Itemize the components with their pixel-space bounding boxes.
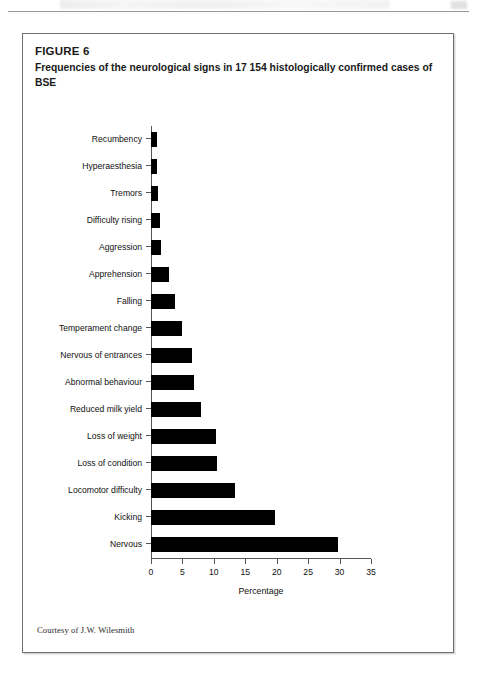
category-label: Reduced milk yield [70, 401, 142, 417]
page-running-head-text-ghost [60, 0, 390, 9]
bar-row: Abnormal behaviour [151, 369, 451, 396]
category-label: Temperament change [59, 320, 142, 336]
category-label: Loss of weight [87, 428, 142, 444]
x-axis-tick [182, 559, 183, 564]
x-axis-tick [371, 559, 372, 564]
page-running-head-rule [8, 11, 469, 12]
bar [151, 213, 160, 228]
bar [151, 240, 161, 255]
bar [151, 267, 169, 282]
bar-row: Nervous [151, 531, 451, 558]
category-label: Kicking [114, 509, 142, 525]
bar-row: Loss of condition [151, 450, 451, 477]
bar-row: Temperament change [151, 315, 451, 342]
bars-container: RecumbencyHyperaesthesiaTremorsDifficult… [151, 126, 451, 558]
bar-row: Hyperaesthesia [151, 153, 451, 180]
bar [151, 429, 216, 444]
bar [151, 402, 201, 417]
bar [151, 159, 157, 174]
bar [151, 186, 158, 201]
bar-row: Aggression [151, 234, 451, 261]
bar-row: Falling [151, 288, 451, 315]
bar [151, 510, 275, 525]
bar [151, 483, 235, 498]
category-label: Locomotor difficulty [68, 482, 142, 498]
bar [151, 294, 175, 309]
bar [151, 348, 192, 363]
bar-row: Difficulty rising [151, 207, 451, 234]
x-axis-tick-label: 10 [209, 567, 219, 577]
bar [151, 375, 194, 390]
bar-chart: RecumbencyHyperaesthesiaTremorsDifficult… [23, 34, 455, 654]
category-label: Apprehension [89, 266, 142, 282]
bar-row: Reduced milk yield [151, 396, 451, 423]
category-label: Difficulty rising [87, 212, 142, 228]
bar-row: Locomotor difficulty [151, 477, 451, 504]
x-axis-tick-label: 15 [241, 567, 251, 577]
category-label: Nervous of entrances [60, 347, 142, 363]
category-label: Falling [117, 293, 142, 309]
category-label: Nervous [110, 536, 142, 552]
x-axis-tick-label: 0 [149, 567, 154, 577]
x-axis-tick [308, 559, 309, 564]
x-axis-tick-label: 25 [303, 567, 313, 577]
bar-row: Loss of weight [151, 423, 451, 450]
x-axis-tick-label: 30 [335, 567, 345, 577]
category-label: Abnormal behaviour [65, 374, 142, 390]
bar [151, 456, 217, 471]
x-axis-tick-label: 20 [272, 567, 282, 577]
x-axis-title: Percentage [151, 586, 371, 596]
bar-row: Tremors [151, 180, 451, 207]
figure-box: FIGURE 6 Frequencies of the neurological… [22, 33, 454, 653]
x-axis-tick [340, 559, 341, 564]
bar-row: Kicking [151, 504, 451, 531]
x-axis-ticks: 05101520253035 [151, 559, 391, 589]
bar [151, 321, 182, 336]
category-label: Hyperaesthesia [82, 158, 142, 174]
category-label: Loss of condition [78, 455, 143, 471]
x-axis-tick-label: 5 [180, 567, 185, 577]
category-label: Recumbency [92, 131, 142, 147]
bar [151, 132, 157, 147]
category-label: Tremors [110, 185, 142, 201]
category-label: Aggression [99, 239, 142, 255]
x-axis-tick [214, 559, 215, 564]
x-axis-tick-label: 35 [366, 567, 376, 577]
figure-credit: Courtesy of J.W. Wilesmith [37, 625, 135, 635]
bar [151, 537, 338, 552]
bar-row: Nervous of entrances [151, 342, 451, 369]
bar-row: Apprehension [151, 261, 451, 288]
x-axis-tick [277, 559, 278, 564]
bar-row: Recumbency [151, 126, 451, 153]
page-number-ghost [451, 1, 467, 9]
x-axis-tick [245, 559, 246, 564]
x-axis-tick [151, 559, 152, 564]
